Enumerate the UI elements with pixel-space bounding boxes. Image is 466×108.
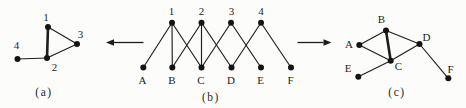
graph-b-edge-1-A	[143, 23, 172, 68]
graph-c-node-label-B: B	[378, 13, 385, 25]
graph-b-node-4	[258, 20, 264, 26]
arrow-left-head-icon	[106, 39, 114, 45]
graph-c-edge-A-C	[359, 45, 390, 61]
graph-a-node-3	[74, 41, 80, 47]
graph-b-node-label-1: 1	[169, 5, 175, 17]
arrow-right-head-icon	[324, 39, 332, 45]
graph-b-node-label-F: F	[287, 74, 293, 86]
graph-c-node-label-F: F	[447, 63, 453, 75]
graph-c-node-label-E: E	[345, 62, 352, 74]
graph-c-node-label-A: A	[345, 38, 353, 50]
graph-b-node-A	[140, 65, 146, 71]
graph-b-node-label-C: C	[197, 74, 204, 86]
graph-c-node-F	[445, 75, 451, 81]
graph-a-node-label-4: 4	[14, 39, 20, 51]
graph-b-node-label-B: B	[168, 74, 175, 86]
graph-b-node-2	[199, 20, 205, 26]
graph-b-node-B	[169, 65, 175, 71]
caption-c: (c)	[388, 86, 405, 99]
graph-a-edge-2-3	[47, 44, 77, 58]
figure-canvas: 1234(a)1234ABCDEF(b)ABCDEF(c)	[0, 0, 466, 108]
graph-a-node-4	[15, 56, 21, 62]
graph-a-edge-2-4	[18, 58, 48, 59]
graph-c-node-label-D: D	[423, 31, 431, 43]
graph-c-edge-B-D	[386, 31, 420, 45]
graph-a-node-label-3: 3	[78, 28, 84, 40]
graph-b-node-label-3: 3	[229, 5, 235, 17]
graph-c-node-label-C: C	[395, 60, 402, 72]
graph-b-node-F	[288, 65, 294, 71]
graph-b-node-3	[228, 20, 234, 26]
graph-c-node-B	[383, 28, 389, 34]
graph-a-edge-1-2	[47, 27, 48, 58]
graph-a-node-1	[45, 24, 51, 30]
graph-b-node-label-D: D	[227, 74, 235, 86]
graph-c: ABCDEF(c)	[345, 13, 454, 99]
graph-c-edge-B-C	[386, 31, 391, 61]
caption-a: (a)	[35, 86, 52, 99]
graph-a-node-2	[44, 55, 50, 61]
graph-b-node-E	[258, 65, 264, 71]
graph-a-node-label-2: 2	[52, 61, 58, 73]
caption-b: (b)	[202, 91, 220, 104]
graph-a-node-label-1: 1	[43, 11, 49, 23]
graph-c-node-A	[356, 42, 362, 48]
graph-a-edge-1-3	[48, 27, 77, 44]
graph-c-node-C	[388, 58, 394, 64]
graph-b-node-label-E: E	[257, 74, 264, 86]
graph-c-node-E	[355, 74, 361, 80]
graph-b-node-1	[169, 20, 175, 26]
arrow-right	[298, 39, 332, 45]
figure-svg: 1234(a)1234ABCDEF(b)ABCDEF(c)	[0, 0, 466, 108]
graph-c-edge-D-F	[420, 44, 449, 78]
graph-b-edge-4-F	[261, 23, 291, 68]
graph-b-node-D	[229, 65, 235, 71]
graph-c-edge-C-E	[358, 61, 390, 77]
graph-b-node-label-4: 4	[258, 5, 264, 17]
arrow-left	[106, 39, 144, 45]
graph-b-node-label-2: 2	[199, 5, 205, 17]
graph-b-node-C	[199, 65, 205, 71]
graph-c-edge-C-D	[391, 44, 420, 61]
graph-b-node-label-A: A	[139, 74, 147, 86]
graph-a: 1234(a)	[14, 11, 84, 99]
graph-b: 1234ABCDEF(b)	[139, 5, 294, 104]
graph-c-edge-A-B	[359, 31, 386, 46]
